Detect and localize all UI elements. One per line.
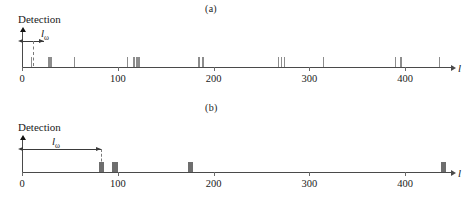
x-tick-label: 200 [206,178,222,189]
panel-b-label: (b) [205,102,218,113]
detection-event-bar [202,57,204,67]
x-tick-mark [214,67,215,71]
panel-a: (a) Detection lω l 0100200300400 [0,0,470,99]
detection-event-bar [74,57,76,67]
detection-event-bar [138,57,140,67]
x-tick-mark [214,172,215,176]
panel-b-x-axis-arrow [451,170,456,176]
panel-a-y-axis [22,32,23,68]
panel-a-window-dashed-drop [33,41,34,66]
panel-a-x-axis-arrow [451,65,456,71]
x-tick-mark [309,172,310,176]
panel-b-window-line [22,149,101,150]
panel-a-window-label: lω [41,27,49,42]
detection-event-bar [278,57,280,67]
detection-event-bar [441,162,447,172]
x-tick-label: 300 [301,178,317,189]
detection-event-bar [127,57,129,67]
x-tick-label: 0 [19,178,24,189]
detection-event-bar [400,57,402,67]
x-tick-mark [22,67,23,71]
detection-event-bar [99,162,105,172]
x-tick-label: 100 [110,73,126,84]
x-tick-label: 100 [110,178,126,189]
detection-event-bar [284,57,286,67]
x-tick-label: 400 [397,73,413,84]
panel-b-x-axis-variable: l [458,167,461,179]
panel-b-y-axis-label: Detection [18,121,61,133]
detection-event-bar [50,57,52,67]
x-tick-label: 300 [301,73,317,84]
x-tick-mark [22,172,23,176]
detection-event-bar [188,162,194,172]
x-tick-label: 0 [19,73,24,84]
panel-a-window-label-subscript: ω [44,33,49,42]
x-tick-mark [309,67,310,71]
panel-b-x-axis [22,172,452,173]
x-tick-label: 200 [206,73,222,84]
panel-a-y-axis-label: Detection [18,13,61,25]
x-tick-mark [405,67,406,71]
detection-event-bar [281,57,283,67]
x-tick-mark [118,172,119,176]
x-tick-mark [405,172,406,176]
panel-b-window-label-subscript: ω [55,141,60,150]
panel-b-y-axis [22,140,23,173]
detection-event-bar [133,57,135,67]
detection-event-bar [323,57,325,67]
detection-event-bar [439,57,441,67]
x-tick-mark [118,67,119,71]
detection-event-bar [112,162,118,172]
panel-b: (b) Detection lω l 0100200300400 [0,99,470,198]
panel-a-x-axis [22,67,452,68]
panel-a-label: (a) [205,3,217,14]
detection-event-bar [395,57,397,67]
detection-event-bar [198,57,200,67]
panel-b-window-label: lω [52,135,60,150]
x-tick-label: 400 [397,178,413,189]
panel-a-x-axis-variable: l [458,62,461,74]
detection-event-bar [31,57,33,67]
